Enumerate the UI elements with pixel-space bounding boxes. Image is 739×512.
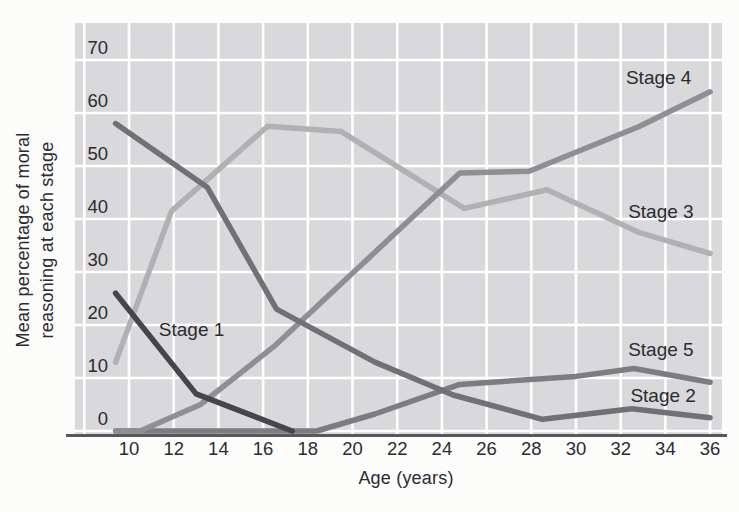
y-tick-label: 30 xyxy=(87,249,108,270)
y-tick-label: 40 xyxy=(87,196,108,217)
x-tick-label: 10 xyxy=(119,438,140,459)
series-label-stage-3: Stage 3 xyxy=(628,201,694,222)
x-tick-label: 36 xyxy=(700,438,721,459)
y-tick-label: 20 xyxy=(87,302,108,323)
y-tick-label: 0 xyxy=(98,408,108,429)
series-label-stage-4: Stage 4 xyxy=(626,67,692,88)
figure-moral-reasoning-chart: Mean percentage of moral reasoning at ea… xyxy=(0,0,739,512)
x-tick-label: 24 xyxy=(432,438,453,459)
y-tick-label: 10 xyxy=(87,355,108,376)
x-tick-label: 28 xyxy=(521,438,542,459)
x-tick-label: 16 xyxy=(253,438,274,459)
x-tick-label: 34 xyxy=(655,438,676,459)
x-tick-label: 30 xyxy=(566,438,587,459)
series-label-stage-5: Stage 5 xyxy=(628,339,694,360)
x-axis-title: Age (years) xyxy=(358,468,453,489)
y-tick-label: 50 xyxy=(87,143,108,164)
x-tick-label: 20 xyxy=(342,438,363,459)
x-tick-label: 18 xyxy=(298,438,319,459)
x-tick-label: 32 xyxy=(610,438,631,459)
x-tick-label: 14 xyxy=(208,438,229,459)
y-tick-label: 70 xyxy=(87,37,108,58)
series-label-stage-1: Stage 1 xyxy=(159,319,225,340)
line-chart: Stage 1Stage 2Stage 3Stage 4Stage 501020… xyxy=(0,0,739,512)
x-tick-label: 26 xyxy=(476,438,497,459)
y-tick-label: 60 xyxy=(87,90,108,111)
x-tick-label: 12 xyxy=(163,438,184,459)
x-tick-label: 22 xyxy=(387,438,408,459)
series-label-stage-2: Stage 2 xyxy=(630,385,696,406)
